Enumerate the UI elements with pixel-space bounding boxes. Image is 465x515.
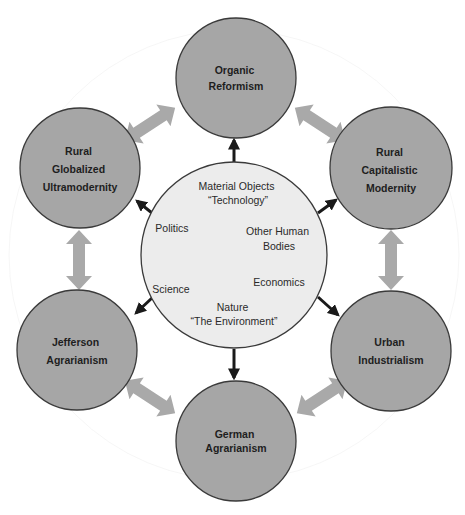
node-circle	[176, 18, 296, 138]
center-label-economics: Economics	[253, 276, 304, 288]
node-rural-globalized-ultramodernity: Rural Globalized Ultramodernity	[20, 108, 140, 228]
center-label-science: Science	[152, 283, 190, 295]
node-circle	[331, 291, 451, 411]
node-circle	[176, 381, 296, 501]
agrarian-modernity-diagram: Material Objects “Technology” Politics O…	[0, 0, 465, 515]
node-urban-industrialism: Urban Industrialism	[331, 291, 451, 411]
double-arrow-capitalistic-urban	[378, 230, 404, 290]
node-circle	[17, 290, 137, 410]
node-organic-reformism: Organic Reformism	[176, 18, 296, 138]
spoke-to-urban-industrialism	[318, 297, 338, 315]
spoke-to-rural-capitalistic-modernity	[318, 200, 336, 213]
center-hub: Material Objects “Technology” Politics O…	[141, 162, 327, 348]
node-jefferson-agrarianism: Jefferson Agrarianism	[17, 290, 137, 410]
node-german-agrarianism: German Agrarianism	[176, 381, 296, 501]
spoke-to-jefferson-agrarianism	[136, 298, 152, 313]
center-label-politics: Politics	[155, 222, 188, 234]
node-rural-capitalistic-modernity: Rural Capitalistic Modernity	[330, 107, 452, 229]
double-arrow-jefferson-globalized	[66, 230, 92, 290]
spoke-to-rural-globalized-ultramodernity	[137, 201, 152, 213]
